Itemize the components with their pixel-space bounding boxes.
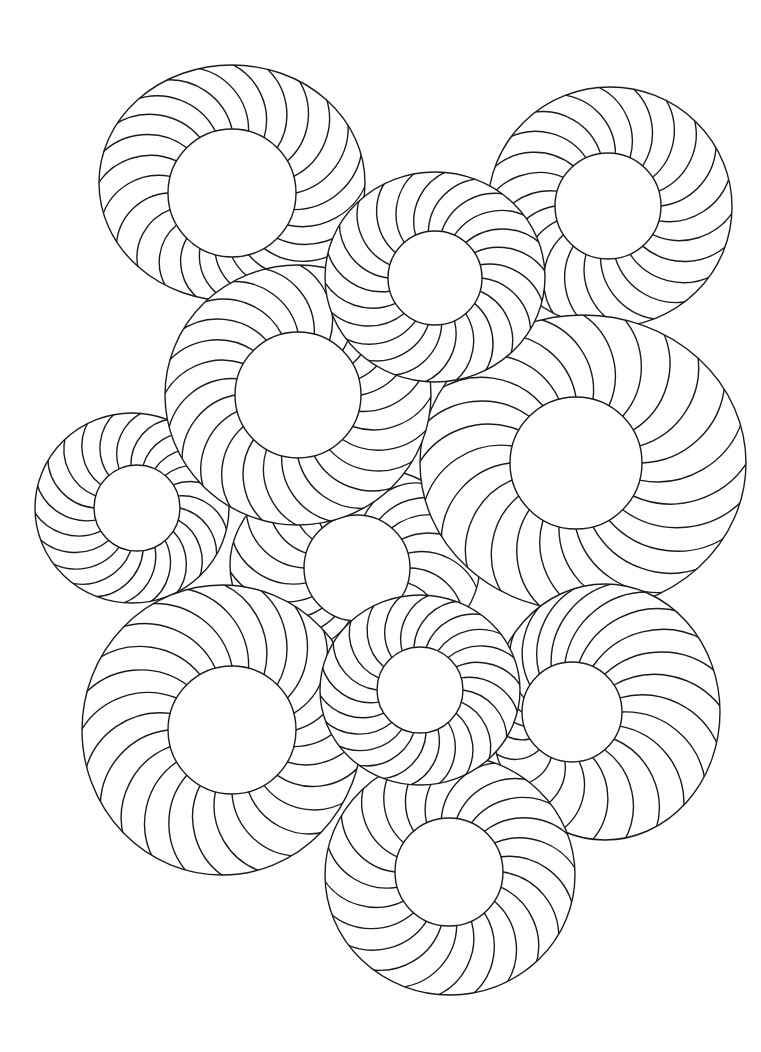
inner-hub (510, 397, 642, 529)
medallion-lower-center (318, 594, 522, 786)
inner-hub (388, 231, 482, 325)
inner-hub (94, 465, 180, 551)
inner-hub (168, 129, 296, 257)
inner-hub (235, 332, 361, 458)
medallion-top-center (323, 171, 547, 384)
spiral-circles-drawing (0, 0, 761, 1052)
inner-hub (522, 662, 622, 762)
inner-hub (555, 153, 661, 259)
inner-hub (395, 818, 503, 926)
coloring-page (0, 0, 761, 1052)
inner-hub (377, 647, 463, 733)
inner-hub (168, 666, 296, 794)
